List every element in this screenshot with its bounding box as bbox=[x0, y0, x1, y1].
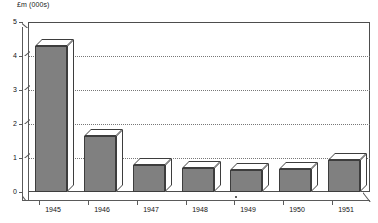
bar-front-face bbox=[230, 170, 262, 192]
bar-front-face bbox=[328, 160, 360, 192]
floor-left-edge bbox=[22, 192, 29, 201]
x-tick-label-1946: 1946 bbox=[84, 206, 120, 213]
bar-1950 bbox=[279, 162, 311, 192]
gridline-3 bbox=[29, 90, 370, 91]
x-tick-label-1950: 1950 bbox=[279, 206, 315, 213]
x-tick-mark-1948 bbox=[186, 201, 187, 205]
y-tick-mark-1 bbox=[19, 158, 23, 159]
y-tick-riser-3 bbox=[24, 85, 30, 90]
y-tick-mark-3 bbox=[19, 90, 23, 91]
y-axis-cap bbox=[22, 22, 30, 28]
bar-front-face bbox=[84, 136, 116, 192]
y-tick-label-1: 1 bbox=[4, 154, 17, 161]
x-tick-label-1945: 1945 bbox=[35, 206, 71, 213]
x-tick-mark-1949 bbox=[234, 201, 235, 205]
y-tick-riser-1 bbox=[24, 153, 30, 158]
x-tick-mark-1950 bbox=[283, 201, 284, 205]
x-tick-label-1948: 1948 bbox=[182, 206, 218, 213]
bar-chart: £m (000s) 012345 19451946194719481949195… bbox=[0, 0, 378, 223]
x-tick-mark-1946 bbox=[88, 201, 89, 205]
bar-front-face bbox=[182, 168, 214, 192]
gridline-1 bbox=[29, 158, 370, 159]
bar-1946 bbox=[84, 129, 116, 192]
y-tick-mark-2 bbox=[19, 124, 23, 125]
bar-1948 bbox=[182, 161, 214, 192]
artifact-speck bbox=[235, 196, 237, 198]
gridline-2 bbox=[29, 124, 370, 125]
bar-side-face bbox=[360, 153, 367, 192]
y-tick-riser-2 bbox=[24, 119, 30, 124]
bar-side-face bbox=[116, 129, 123, 192]
gridline-4 bbox=[29, 56, 370, 57]
x-tick-label-1951: 1951 bbox=[328, 206, 364, 213]
y-tick-riser-4 bbox=[24, 51, 30, 56]
y-tick-mark-0 bbox=[19, 192, 23, 193]
x-axis-floor bbox=[22, 192, 370, 201]
y-tick-mark-4 bbox=[19, 56, 23, 57]
x-tick-mark-1947 bbox=[137, 201, 138, 205]
bar-1949 bbox=[230, 163, 262, 192]
y-tick-label-0: 0 bbox=[4, 188, 17, 195]
y-axis-unit-caption: £m (000s) bbox=[17, 1, 49, 8]
y-tick-label-3: 3 bbox=[4, 86, 17, 93]
y-tick-label-2: 2 bbox=[4, 120, 17, 127]
x-tick-label-1947: 1947 bbox=[133, 206, 169, 213]
y-tick-label-4: 4 bbox=[4, 52, 17, 59]
floor-right-edge bbox=[363, 192, 372, 202]
bar-front-face bbox=[279, 169, 311, 192]
x-tick-mark-1951 bbox=[332, 201, 333, 205]
bar-front-face bbox=[133, 165, 165, 192]
x-tick-mark-1945 bbox=[39, 201, 40, 205]
bar-1945 bbox=[35, 39, 67, 192]
bar-1951 bbox=[328, 153, 360, 192]
bar-1947 bbox=[133, 158, 165, 192]
bar-front-face bbox=[35, 46, 67, 192]
bar-side-face bbox=[67, 39, 74, 192]
y-tick-label-5: 5 bbox=[4, 18, 17, 25]
y-tick-mark-5 bbox=[19, 22, 23, 23]
x-tick-label-1949: 1949 bbox=[230, 206, 266, 213]
